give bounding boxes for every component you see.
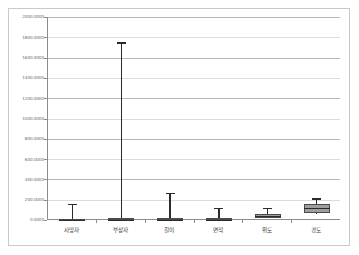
- y-axis-tick-mark: [44, 37, 47, 38]
- boxplot-median: [206, 220, 232, 221]
- boxplot-upper-cap: [312, 198, 321, 199]
- x-axis-tick-mark: [96, 220, 97, 223]
- boxplot-median: [157, 220, 183, 221]
- y-axis-tick-label: 400.0000: [25, 177, 44, 182]
- x-axis-tick-mark: [291, 220, 292, 223]
- y-axis-tick-label: 1400.0000: [22, 75, 44, 80]
- y-axis-tick-mark: [44, 98, 47, 99]
- y-axis-tick-label: 0.0000: [30, 217, 44, 222]
- x-axis-category-label: 길이: [145, 226, 194, 234]
- y-axis-tick-label: 800.0000: [25, 136, 44, 141]
- y-axis-tick-label: 600.0000: [25, 157, 44, 162]
- x-axis-category-label: 면적: [194, 226, 243, 234]
- y-axis-tick-mark: [44, 58, 47, 59]
- plot-area: [47, 17, 340, 220]
- boxplot-median: [304, 208, 330, 209]
- y-axis-tick-mark: [44, 78, 47, 79]
- y-axis-tick-label: 1600.0000: [22, 55, 44, 60]
- y-axis-tick-mark: [44, 179, 47, 180]
- y-axis-tick-mark: [44, 220, 47, 221]
- x-axis-tick-mark: [242, 220, 243, 223]
- x-axis-category-label: 부상자: [96, 226, 145, 234]
- x-axis-category-label: 사망자: [47, 226, 96, 234]
- y-axis-tick-label: 1200.0000: [22, 96, 44, 101]
- y-axis-tick-label: 2000.0000: [22, 14, 44, 19]
- y-axis-tick-mark: [44, 200, 47, 201]
- y-axis-tick-label: 1000.0000: [22, 116, 44, 121]
- boxplot-item: [48, 17, 341, 220]
- chart-figure: 2000.00001800.00001600.00001400.00001200…: [0, 0, 359, 255]
- y-axis-tick-mark: [44, 159, 47, 160]
- x-axis-category-label: 경도: [291, 226, 340, 234]
- y-axis-tick-label: 200.0000: [25, 197, 44, 202]
- boxplot-median: [59, 220, 85, 221]
- y-axis-tick-mark: [44, 139, 47, 140]
- y-axis-tick-mark: [44, 17, 47, 18]
- y-axis-tick-label: 1800.0000: [22, 35, 44, 40]
- boxplot-median: [108, 220, 134, 221]
- y-axis-tick-mark: [44, 119, 47, 120]
- x-axis-category-label: 위도: [242, 226, 291, 234]
- x-axis-tick-mark: [194, 220, 195, 223]
- x-axis-tick-mark: [145, 220, 146, 223]
